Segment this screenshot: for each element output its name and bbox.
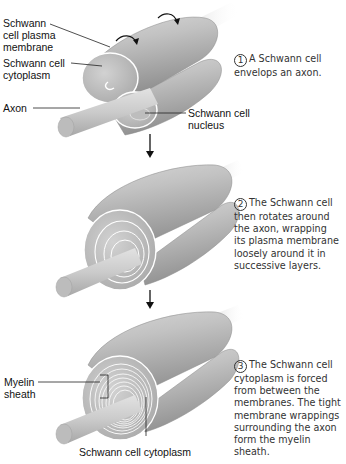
label-line: nucleus	[188, 119, 250, 131]
label-line: Schwann cell	[188, 107, 250, 119]
step-3-description: 3The Schwann cell cytoplasm is forced fr…	[234, 359, 341, 458]
label-plasma-membrane: Schwann cell plasma membrane	[3, 17, 56, 53]
step-line: 1A Schwann cell	[234, 53, 322, 67]
label-schwann-cell-cytoplasm-bottom: Schwann cell cytoplasm	[79, 446, 191, 458]
step-text: A Schwann cell	[249, 53, 322, 64]
label-line: membrane	[3, 41, 56, 53]
step-text: its plasma membrane	[234, 235, 339, 247]
step-text: form the myelin	[234, 434, 341, 446]
label-line: Myelin	[4, 376, 36, 388]
step-number-badge: 2	[234, 198, 247, 211]
step-text: The Schwann cell	[249, 197, 333, 208]
arrow-stage1-to-stage2	[146, 134, 154, 158]
step-text: cytoplasm is forced	[234, 373, 341, 385]
step-2-description: 2The Schwann cell then rotates around th…	[234, 197, 339, 272]
step-1-description: 1A Schwann cell envelops an axon.	[234, 53, 322, 79]
step-text: then rotates around	[234, 211, 339, 223]
step-line: 3The Schwann cell	[234, 359, 341, 373]
label-schwann-cytoplasm: Schwann cell cytoplasm	[3, 57, 65, 81]
label-schwann-nucleus: Schwann cell nucleus	[188, 107, 250, 131]
label-line: Schwann	[3, 17, 56, 29]
step-text: surrounding the axon	[234, 422, 341, 434]
arrow-stage2-to-stage3	[146, 290, 154, 309]
step-number-badge: 1	[234, 54, 247, 67]
step-text: sheath.	[234, 446, 341, 458]
stage3-illustration	[38, 305, 245, 444]
label-line: cytoplasm	[3, 69, 65, 81]
step-text: membrane wrappings	[234, 410, 341, 422]
stage2-illustration	[56, 160, 245, 297]
step-text: The Schwann cell	[249, 359, 333, 370]
step-text: the axon, wrapping	[234, 223, 339, 235]
step-text: envelops an axon.	[234, 67, 322, 79]
step-line: 2The Schwann cell	[234, 197, 339, 211]
label-line: Schwann cell	[3, 57, 65, 69]
label-axon: Axon	[3, 102, 27, 114]
step-text: membranes. The tight	[234, 397, 341, 409]
label-line: cell plasma	[3, 29, 56, 41]
step-text: from between the	[234, 385, 341, 397]
label-line: sheath	[4, 388, 36, 400]
label-myelin-sheath: Myelin sheath	[4, 376, 36, 400]
step-text: successive layers.	[234, 260, 339, 272]
step-text: loosely around it in	[234, 248, 339, 260]
step-number-badge: 3	[234, 360, 247, 373]
